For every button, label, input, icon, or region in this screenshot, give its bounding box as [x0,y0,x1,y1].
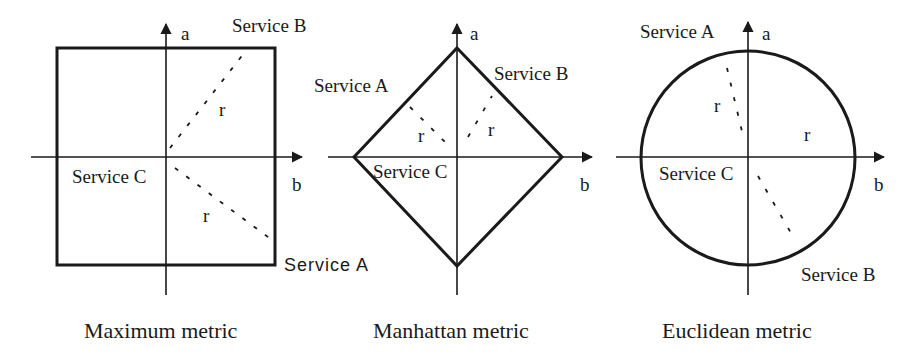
service-c-label: Service C [659,164,733,183]
axis-b-label: b [292,175,302,194]
radius-label: r [219,100,225,119]
radius-line-a [175,168,272,240]
service-c-label: Service C [72,167,146,186]
caption-manhattan: Manhattan metric [373,320,529,342]
service-c-label: Service C [373,162,447,181]
radius-label: r [418,126,424,145]
euclidean-metric-diagram [616,22,884,295]
radius-line-b [758,176,795,240]
axis-a-label: a [470,24,478,43]
service-b-label: Service B [232,16,306,35]
caption-euclidean: Euclidean metric [662,320,812,342]
service-a-label: Service A [314,76,388,95]
axis-a-label: a [181,24,189,43]
radius-label: r [203,206,209,225]
service-a-label: Service A [640,22,714,41]
service-b-label: Service B [494,64,568,83]
caption-maximum: Maximum metric [84,320,237,342]
radius-label: r [804,125,810,144]
service-a-label: Service A [284,256,369,274]
radius-line-b [170,48,248,148]
axis-a-label: a [762,24,770,43]
radius-line-a [727,68,744,140]
service-b-label: Service B [801,265,875,284]
maximum-metric-diagram [31,24,302,295]
radius-label: r [714,96,720,115]
axis-b-label: b [874,175,884,194]
axis-b-label: b [580,175,590,194]
radius-line-a [410,107,446,143]
radius-label: r [488,120,494,139]
